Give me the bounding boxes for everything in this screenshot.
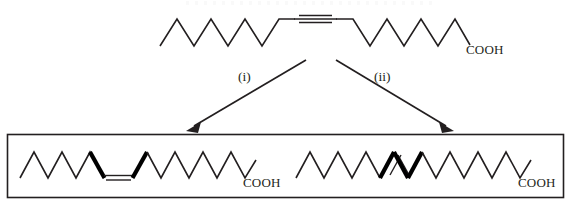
cis-product-molecule: COOH	[20, 152, 281, 190]
reaction-scheme-figure: COOH (i) (ii)	[0, 0, 574, 209]
arrow-ii-head	[439, 122, 454, 133]
products-box	[8, 135, 564, 198]
arrow-i: (i)	[186, 60, 306, 133]
arrow-ii: (ii)	[336, 60, 454, 133]
arrow-ii-shaft	[336, 60, 446, 126]
cis-bold-bond-left	[90, 152, 105, 178]
arrow-i-label: (i)	[238, 69, 251, 84]
trans-bold-bond-tail	[408, 152, 422, 178]
cis-product-cooh-label: COOH	[243, 175, 281, 190]
trans-right-chain	[422, 152, 531, 178]
arrow-ii-label: (ii)	[374, 69, 391, 84]
cis-right-chain	[147, 152, 256, 178]
trans-bold-bond-left	[380, 152, 394, 178]
triple-bond	[294, 16, 337, 23]
reactant-right-chain	[336, 19, 470, 46]
arrow-i-head	[186, 122, 201, 133]
trans-left-chain	[296, 152, 380, 178]
trans-product-molecule: COOH	[296, 152, 556, 190]
cis-bold-bond-right	[133, 152, 148, 178]
trans-product-cooh-label: COOH	[518, 175, 556, 190]
reaction-scheme-canvas: COOH (i) (ii)	[0, 0, 574, 209]
reactant-cooh-label: COOH	[466, 42, 504, 57]
reactant-molecule: COOH	[160, 16, 504, 58]
reactant-left-chain	[160, 19, 295, 46]
cis-double-bond	[104, 176, 133, 181]
